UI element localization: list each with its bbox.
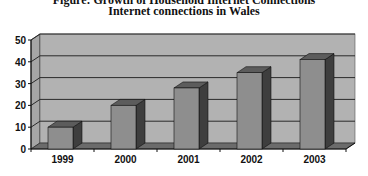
x-tick-label: 2003 bbox=[303, 154, 326, 165]
bar-2003 bbox=[300, 60, 325, 149]
y-tick-label: 20 bbox=[15, 100, 27, 111]
bar-chart: 0102030405019992000200120022003 bbox=[0, 0, 368, 176]
x-tick-label: 2001 bbox=[177, 154, 200, 165]
x-tick-label: 2002 bbox=[240, 154, 263, 165]
bar-1999 bbox=[48, 127, 73, 149]
y-tick-label: 30 bbox=[15, 79, 27, 90]
bar-side-2001 bbox=[199, 82, 208, 149]
bar-side-2000 bbox=[136, 99, 145, 149]
bar-side-2003 bbox=[325, 54, 334, 149]
y-tick-label: 0 bbox=[20, 144, 26, 155]
y-tick-label: 40 bbox=[15, 57, 27, 68]
x-tick-label: 1999 bbox=[51, 154, 74, 165]
y-tick-label: 50 bbox=[15, 35, 27, 46]
bar-2000 bbox=[111, 105, 136, 149]
bar-side-2002 bbox=[262, 67, 271, 149]
bar-2002 bbox=[237, 73, 262, 149]
side-wall bbox=[31, 34, 40, 149]
y-tick-label: 10 bbox=[15, 122, 27, 133]
bar-2001 bbox=[174, 88, 199, 149]
x-tick-label: 2000 bbox=[114, 154, 137, 165]
